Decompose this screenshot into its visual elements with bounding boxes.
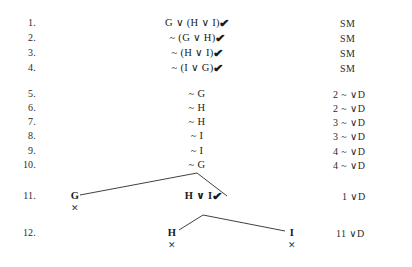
line-number: 1. bbox=[10, 18, 36, 28]
formula-line-5: ~ G bbox=[189, 88, 206, 99]
justification-line-4: SM bbox=[340, 63, 355, 74]
line-number: 11. bbox=[10, 191, 36, 201]
line-number: 5. bbox=[10, 89, 36, 99]
check-icon: ✔ bbox=[215, 33, 225, 44]
justification-line-9: 4 ~ ∨D bbox=[333, 146, 365, 157]
line-number: 6. bbox=[10, 103, 36, 113]
line-number: 4. bbox=[10, 63, 36, 73]
check-icon: ✔ bbox=[212, 191, 222, 202]
justification-line-1: SM bbox=[340, 18, 355, 29]
branch-line-hvi-right bbox=[203, 215, 285, 231]
check-icon: ✔ bbox=[213, 48, 223, 59]
formula-line-6: ~ H bbox=[189, 102, 206, 113]
justification-line-10: 4 ~ ∨D bbox=[333, 160, 365, 171]
formula-line-10: ~ G bbox=[189, 159, 206, 170]
justification-line-6: 2 ~ ∨D bbox=[333, 103, 365, 114]
justification-line-11: 1 ∨D bbox=[342, 191, 366, 202]
formula-line-1: G ∨ (H ∨ I)✔ bbox=[165, 17, 229, 28]
branch-line-root-left bbox=[80, 173, 197, 195]
formula-line-2: ~ (G ∨ H)✔ bbox=[169, 32, 224, 43]
formula-line-7: ~ H bbox=[189, 116, 206, 127]
formula-line-8: ~ I bbox=[191, 130, 204, 141]
line-number: 8. bbox=[10, 131, 36, 141]
justification-line-5: 2 ~ ∨D bbox=[333, 89, 365, 100]
justification-line-7: 3 ~ ∨D bbox=[333, 117, 365, 128]
formula-line-9: ~ I bbox=[191, 145, 204, 156]
branch-node-g: G bbox=[71, 190, 79, 201]
formula-line-4: ~ (I ∨ G)✔ bbox=[171, 62, 222, 73]
branch-node-label: H ∨ I bbox=[185, 190, 213, 201]
formula-text: G ∨ (H ∨ I) bbox=[165, 17, 220, 28]
branch-node-hvi: H ∨ I✔ bbox=[185, 190, 222, 201]
line-number: 12. bbox=[10, 228, 36, 238]
formula-text: ~ (H ∨ I) bbox=[171, 47, 213, 58]
check-icon: ✔ bbox=[213, 63, 223, 74]
line-number: 9. bbox=[10, 146, 36, 156]
branch-node-i: I bbox=[290, 227, 294, 238]
truth-tree-proof-page: 1. 2. 3. 4. 5. 6. 7. 8. 9. 10. 11. 12. G… bbox=[0, 0, 412, 267]
justification-line-8: 3 ~ ∨D bbox=[333, 131, 365, 142]
closure-mark-g: ✕ bbox=[71, 204, 79, 213]
check-icon: ✔ bbox=[219, 18, 229, 29]
line-number: 10. bbox=[10, 160, 36, 170]
closure-mark-i: ✕ bbox=[288, 241, 296, 250]
justification-line-2: SM bbox=[340, 33, 355, 44]
closure-mark-h: ✕ bbox=[168, 241, 176, 250]
formula-line-3: ~ (H ∨ I)✔ bbox=[171, 47, 222, 58]
line-number: 3. bbox=[10, 48, 36, 58]
justification-line-12: 11 ∨D bbox=[336, 228, 365, 239]
formula-text: ~ (I ∨ G) bbox=[171, 62, 213, 73]
line-number: 7. bbox=[10, 117, 36, 127]
branch-line-hvi-left bbox=[179, 215, 203, 230]
branch-node-h: H bbox=[168, 227, 176, 238]
justification-line-3: SM bbox=[340, 48, 355, 59]
formula-text: ~ (G ∨ H) bbox=[169, 32, 215, 43]
line-number: 2. bbox=[10, 33, 36, 43]
